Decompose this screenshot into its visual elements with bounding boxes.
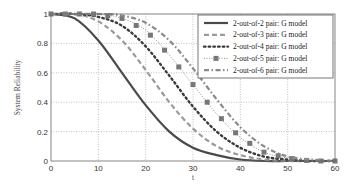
y-tick-label: 0.2 bbox=[37, 128, 49, 137]
legend-label: 2-out-of-4 pair: G model bbox=[233, 42, 307, 51]
legend: 2-out-of-2 pair: G model2-out-of-3 pair:… bbox=[198, 15, 333, 78]
square-marker bbox=[148, 33, 153, 38]
x-tick-label: 30 bbox=[189, 164, 198, 173]
y-tick-label: 0.8 bbox=[37, 39, 49, 48]
x-tick-label: 10 bbox=[94, 164, 103, 173]
x-tick-label: 20 bbox=[141, 164, 150, 173]
legend-label: 2-out-of-5 pair: G model bbox=[233, 54, 307, 63]
legend-marker bbox=[214, 56, 219, 61]
y-axis-label: System Reliability bbox=[13, 59, 22, 115]
legend-label: 2-out-of-2 pair: G model bbox=[233, 19, 307, 28]
x-tick-label: 50 bbox=[283, 164, 292, 173]
square-marker bbox=[233, 130, 238, 135]
x-tick-label: 60 bbox=[331, 164, 340, 173]
legend-label: 2-out-of-3 pair: G model bbox=[233, 30, 307, 39]
square-marker bbox=[219, 116, 224, 121]
square-marker bbox=[134, 23, 139, 28]
square-marker bbox=[176, 64, 181, 69]
x-tick-label: 40 bbox=[236, 164, 245, 173]
x-tick-label: 0 bbox=[49, 164, 54, 173]
x-axis-label: t bbox=[192, 173, 195, 182]
y-tick-label: 0.4 bbox=[37, 98, 49, 107]
square-marker bbox=[205, 100, 210, 105]
square-marker bbox=[262, 150, 267, 155]
y-tick-label: 0 bbox=[44, 157, 49, 166]
y-tick-label: 0.6 bbox=[37, 69, 49, 78]
legend-label: 2-out-of-6 pair: G model bbox=[233, 66, 307, 75]
square-marker bbox=[247, 141, 252, 146]
square-marker bbox=[191, 82, 196, 87]
y-tick-label: 1 bbox=[44, 10, 49, 19]
reliability-chart: 010203040506000.20.40.60.81 t System Rel… bbox=[0, 0, 357, 190]
square-marker bbox=[162, 48, 167, 53]
